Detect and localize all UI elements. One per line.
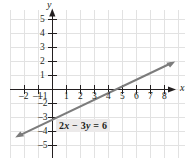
x-tick-label-1: 1	[64, 92, 69, 102]
x-axis-arrow	[168, 86, 176, 92]
graph-figure: y x –2 –1 1 2 3 4 5 6 7 8 5 4 3 2 1 –1 –…	[0, 0, 193, 162]
x-axis-label: x	[180, 83, 184, 93]
x-tick-label-neg2: –2	[19, 92, 29, 102]
y-tick-label-2: 2	[40, 57, 45, 67]
equation-equals: =	[93, 120, 99, 131]
x-tick-label-6: 6	[134, 92, 139, 102]
y-tick-label-neg3: –3	[38, 113, 48, 123]
x-tick-label-7: 7	[148, 92, 153, 102]
equation-var-y: y	[86, 120, 91, 131]
equation-operator: −	[72, 120, 78, 131]
y-tick-label-neg2: –2	[38, 99, 48, 109]
axes	[10, 14, 170, 158]
y-tick-label-neg5: –5	[38, 141, 48, 151]
grid-lines	[10, 10, 185, 158]
x-tick-label-4: 4	[106, 92, 111, 102]
x-tick-label-2: 2	[78, 92, 83, 102]
equation-var-x: x	[64, 120, 69, 131]
equation-rhs: 6	[102, 120, 107, 131]
y-axis-label: y	[47, 0, 51, 10]
y-tick-label-4: 4	[40, 29, 45, 39]
y-tick-label-neg4: –4	[38, 127, 48, 137]
y-tick-label-5: 5	[40, 15, 45, 25]
coordinate-plane-svg	[0, 0, 193, 162]
equation-label: 2x − 3y = 6	[56, 119, 110, 132]
x-tick-label-8: 8	[162, 92, 167, 102]
y-tick-label-3: 3	[40, 43, 45, 53]
x-tick-label-3: 3	[92, 92, 97, 102]
x-tick-label-5: 5	[120, 92, 125, 102]
y-tick-label-1: 1	[40, 71, 45, 81]
